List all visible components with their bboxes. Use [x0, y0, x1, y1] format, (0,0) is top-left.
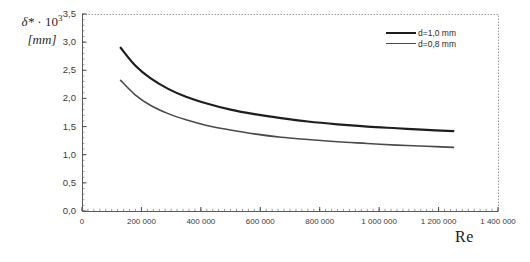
y-tick-label: 2,5 [42, 64, 76, 75]
x-tick-label: 1 400 000 [463, 217, 530, 226]
y-tick-label: 0,5 [42, 177, 76, 188]
y-tick-label: 1,5 [42, 121, 76, 132]
y-tick-label: 2,0 [42, 92, 76, 103]
y-tick-label: 3,5 [42, 8, 76, 19]
plot-frame [83, 15, 499, 212]
series-line-0 [121, 48, 454, 131]
y-tick-label: 1,0 [42, 149, 76, 160]
y-tick-label: 0,0 [42, 205, 76, 216]
y-tick-label: 3,0 [42, 36, 76, 47]
chart-figure: δ* · 103 [mm] Re d=1,0 mm d=0,8 mm 0,00,… [0, 0, 530, 262]
